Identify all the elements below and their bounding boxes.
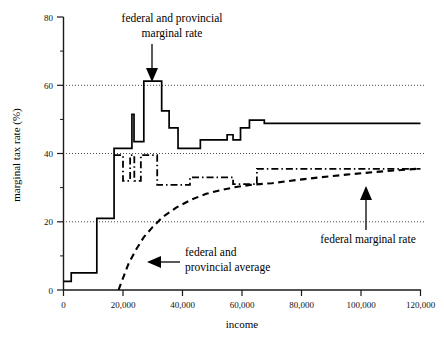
y-tick-label-40: 40 (44, 149, 54, 159)
y-tick-labels: 80 60 40 20 0 (44, 13, 54, 296)
gridlines (63, 85, 424, 222)
y-tick-label-20: 20 (44, 217, 54, 227)
y-tick-label-60: 60 (44, 81, 54, 91)
y-axis-ticks (57, 17, 64, 290)
series-federal-marginal-rate (114, 155, 420, 185)
annotation-marginal-rate-arrow-head (146, 68, 158, 82)
chart-figure: 80 60 40 20 0 0 20,000 40,000 60,000 80,… (0, 0, 444, 345)
series-group (64, 81, 421, 290)
series-federal-and-provincial-marginal-rate (64, 81, 421, 281)
axes (57, 17, 421, 296)
annotation-average-line1: federal and (185, 246, 237, 258)
annotation-marginal-rate-line1: federal and provincial (122, 12, 223, 25)
x-tick-label-120000: 120,000 (406, 300, 436, 310)
annotation-federal-marginal-rate-label: federal marginal rate (320, 233, 416, 246)
y-tick-label-80: 80 (44, 13, 54, 23)
y-axis-title: marginal tax rate (%) (10, 108, 23, 202)
annotation-marginal-rate: federal and provincial marginal rate (122, 12, 223, 82)
x-tick-label-20000: 20,000 (111, 300, 136, 310)
y-tick-label-0: 0 (49, 286, 54, 296)
annotation-marginal-rate-line2: marginal rate (142, 27, 203, 40)
x-tick-label-60000: 60,000 (230, 300, 255, 310)
x-axis-title: income (226, 318, 258, 330)
annotation-average-line2: provincial average (185, 261, 270, 274)
x-tick-labels: 0 20,000 40,000 60,000 80,000 100,000 12… (61, 300, 435, 310)
annotation-average: federal and provincial average (147, 246, 270, 274)
chart-plot-area: 80 60 40 20 0 0 20,000 40,000 60,000 80,… (0, 0, 444, 345)
annotation-federal-marginal-rate-arrow-head (360, 186, 372, 200)
annotation-federal-marginal-rate: federal marginal rate (320, 186, 416, 246)
annotation-average-arrow-head (147, 256, 161, 268)
x-tick-label-40000: 40,000 (170, 300, 195, 310)
x-tick-label-100000: 100,000 (346, 300, 376, 310)
x-tick-label-80000: 80,000 (289, 300, 314, 310)
x-tick-label-0: 0 (61, 300, 66, 310)
x-axis-ticks (64, 290, 421, 296)
